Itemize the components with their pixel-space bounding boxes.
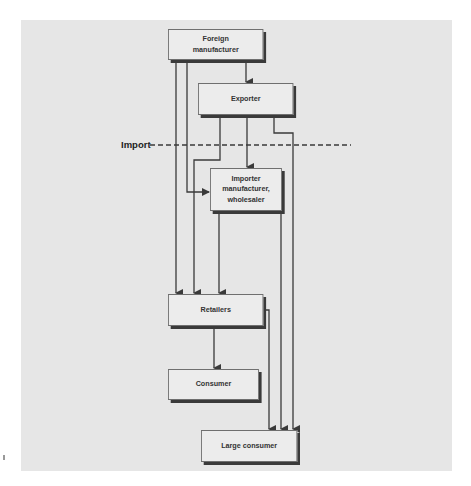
node-large-consumer: Large consumer (201, 430, 297, 462)
node-label-line: manufacturer, (222, 184, 270, 195)
node-consumer: Consumer (168, 369, 259, 400)
node-label: Retailers (200, 305, 230, 316)
node-label-line: wholesaler (222, 195, 270, 206)
connector-lines (0, 0, 471, 486)
scan-artifact-mark (3, 455, 5, 460)
node-label-line: manufacturer (193, 45, 239, 56)
node-exporter: Exporter (198, 83, 293, 115)
node-retailers: Retailers (168, 294, 263, 326)
node-label-line: Foreign (193, 34, 239, 45)
node-foreign-manufacturer: Foreign manufacturer (168, 29, 263, 60)
node-label-line: Importer (222, 174, 270, 185)
node-importer: Importer manufacturer, wholesaler (210, 168, 282, 211)
node-label: Large consumer (221, 441, 277, 452)
import-boundary-label: Import (121, 139, 151, 150)
node-label: Consumer (196, 379, 232, 390)
node-label: Exporter (231, 94, 261, 105)
